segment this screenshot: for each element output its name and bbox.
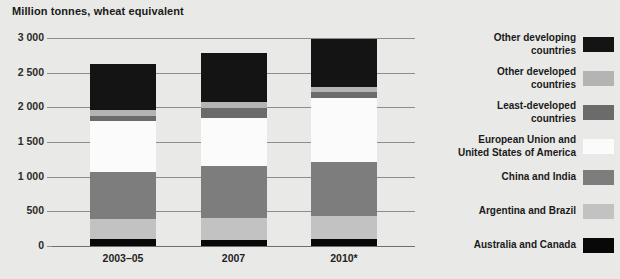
legend-swatch xyxy=(583,139,614,154)
bar-segment[interactable] xyxy=(90,172,156,219)
y-tick-label: 2 500 xyxy=(0,66,44,78)
legend-swatch xyxy=(583,37,614,52)
legend-label: Least-developed countries xyxy=(497,100,576,125)
x-axis-label: 2003–05 xyxy=(68,252,178,264)
bar-segment[interactable] xyxy=(311,92,377,98)
chart-legend: Other developing countriesOther develope… xyxy=(418,30,614,260)
y-tick-label: 0 xyxy=(0,239,44,251)
bar-stack[interactable] xyxy=(201,38,267,246)
y-tick-label: 2 000 xyxy=(0,100,44,112)
bar-segment[interactable] xyxy=(90,239,156,246)
legend-item[interactable]: Least-developed countries xyxy=(418,100,614,125)
chart-container: Million tonnes, wheat equivalent 3 0002 … xyxy=(0,0,620,279)
legend-swatch xyxy=(583,238,614,253)
legend-label: Argentina and Brazil xyxy=(479,205,576,218)
legend-label: China and India xyxy=(502,171,576,184)
legend-item[interactable]: Argentina and Brazil xyxy=(418,204,614,219)
bar-segment[interactable] xyxy=(311,98,377,162)
bar-segment[interactable] xyxy=(90,116,156,122)
y-tick-label: 3 000 xyxy=(0,31,44,43)
legend-label: Other developed countries xyxy=(497,66,576,91)
legend-swatch xyxy=(583,105,614,120)
legend-swatch xyxy=(583,71,614,86)
bar-segment[interactable] xyxy=(201,118,267,166)
bar-segment[interactable] xyxy=(90,110,156,116)
plot-area xyxy=(52,38,415,246)
bar-segment[interactable] xyxy=(201,108,267,118)
x-axis-label: 2010* xyxy=(289,252,399,264)
y-tick-label: 1 000 xyxy=(0,170,44,182)
bar-segment[interactable] xyxy=(311,87,377,93)
y-tick-label: 1 500 xyxy=(0,135,44,147)
gridline-0 xyxy=(52,246,415,247)
bar-segment[interactable] xyxy=(201,53,267,102)
bar-segment[interactable] xyxy=(201,218,267,240)
legend-item[interactable]: Australia and Canada xyxy=(418,238,614,253)
bar-segment[interactable] xyxy=(311,216,377,239)
legend-swatch xyxy=(583,170,614,185)
legend-item[interactable]: Other developing countries xyxy=(418,32,614,57)
bar-segment[interactable] xyxy=(311,162,377,216)
bar-segment[interactable] xyxy=(90,219,156,239)
legend-label: Other developing countries xyxy=(494,32,576,57)
legend-label: Australia and Canada xyxy=(474,239,576,252)
y-tick-label: 500 xyxy=(0,204,44,216)
bar-segment[interactable] xyxy=(201,102,267,108)
bar-stack[interactable] xyxy=(90,38,156,246)
legend-item[interactable]: China and India xyxy=(418,170,614,185)
bar-segment[interactable] xyxy=(311,39,377,87)
x-axis-label: 2007 xyxy=(179,252,289,264)
bar-segment[interactable] xyxy=(90,64,156,110)
bar-segment[interactable] xyxy=(311,239,377,246)
bar-segment[interactable] xyxy=(90,121,156,172)
bar-stack[interactable] xyxy=(311,38,377,246)
bar-segment[interactable] xyxy=(201,166,267,218)
legend-item[interactable]: European Union and United States of Amer… xyxy=(418,134,614,159)
legend-label: European Union and United States of Amer… xyxy=(458,134,576,159)
legend-swatch xyxy=(583,204,614,219)
legend-item[interactable]: Other developed countries xyxy=(418,66,614,91)
chart-title: Million tonnes, wheat equivalent xyxy=(12,5,184,17)
bar-segment[interactable] xyxy=(201,240,267,246)
